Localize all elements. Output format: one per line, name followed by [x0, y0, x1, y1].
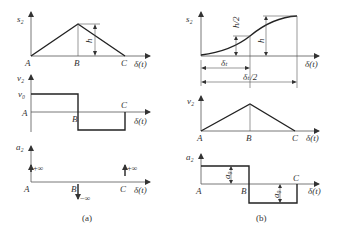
point-a: A [21, 108, 28, 118]
point-c: C [121, 58, 128, 68]
point-b: B [246, 133, 252, 143]
x-label: δ(t) [134, 185, 147, 195]
point-c: C [292, 133, 299, 143]
a0-neg-label: a₀ [271, 190, 281, 198]
x-label: δ(t) [134, 116, 147, 126]
x-label: δ(t) [306, 133, 319, 143]
v0-label: v₀ [18, 89, 25, 99]
point-a: A [195, 186, 202, 196]
y-label: v₂ [17, 73, 24, 83]
h-label: h [84, 38, 94, 43]
acceleration-curve [201, 166, 297, 203]
point-a: A [196, 133, 203, 143]
caption-a: (a) [82, 213, 92, 223]
panel-a-velocity-plot: v₂ v₀ A B C δ(t) [17, 73, 150, 132]
panel-b: s₂ h/2 h δ(t) δₜ δₜ/2 v₂ A B C δ(t) [186, 12, 321, 223]
panel-a: s₂ h A B C δ(t) v₂ v₀ A B C δ(t) a₂ [16, 12, 150, 223]
panel-a-acceleration-plot: a₂ +∞ −∞ +∞ A B C δ(t) [16, 142, 150, 203]
y-label: a₂ [186, 152, 194, 162]
point-b: B [241, 186, 247, 196]
panel-a-displacement-plot: s₂ h A B C δ(t) [17, 12, 150, 69]
y-label: v₂ [187, 96, 194, 106]
h-label: h [256, 38, 266, 43]
caption-b: (b) [256, 213, 267, 223]
velocity-curve [201, 104, 295, 131]
point-b: B [74, 58, 80, 68]
y-label: a₂ [16, 142, 24, 152]
x-label: δ(t) [134, 59, 147, 69]
x-label: δ(t) [305, 59, 318, 69]
impulse-c-label: +∞ [127, 164, 138, 173]
point-c: C [120, 184, 127, 194]
impulse-b-label: −∞ [80, 194, 91, 203]
y-label: s₂ [186, 14, 193, 24]
x-label: δ(t) [308, 186, 321, 196]
point-c: C [121, 100, 128, 110]
point-a: A [24, 58, 31, 68]
dim-inner-label: δₜ [221, 58, 228, 68]
point-b: B [72, 114, 78, 124]
h2-label: h/2 [231, 16, 241, 28]
a0-pos-label: a₀ [222, 171, 232, 179]
displacement-curve [201, 16, 297, 55]
point-c: C [293, 173, 300, 183]
point-b: B [71, 184, 77, 194]
panel-b-velocity-plot: v₂ A B C δ(t) [187, 96, 319, 143]
cam-motion-diagram: s₂ h A B C δ(t) v₂ v₀ A B C δ(t) a₂ [0, 0, 341, 237]
impulse-a-label: +∞ [33, 164, 44, 173]
point-a: A [23, 184, 30, 194]
panel-b-displacement-plot: s₂ h/2 h δ(t) δₜ δₜ/2 [186, 12, 319, 88]
dim-outer-label: δₜ/2 [243, 72, 258, 82]
panel-b-acceleration-plot: a₂ a₀ a₀ A B C δ(t) [186, 152, 321, 203]
y-label: s₂ [17, 14, 24, 24]
